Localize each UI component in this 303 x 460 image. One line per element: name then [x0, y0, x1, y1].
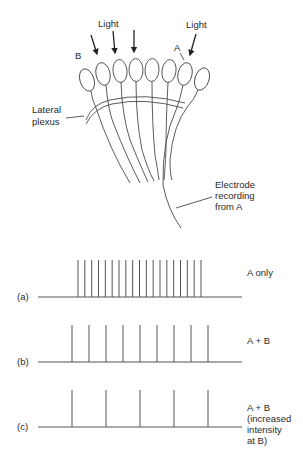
ommatidium-b [77, 67, 97, 93]
ommatidia [77, 58, 212, 93]
ommatidium [94, 61, 112, 86]
cell-a-pointer [180, 53, 184, 60]
electrode-label-1: Electrode [215, 179, 255, 190]
trace-b-label: (b) [17, 356, 29, 367]
light-label-left: Light [98, 18, 119, 29]
plexus-pointer [66, 116, 84, 118]
electrode-pointer [176, 197, 212, 208]
trace-c-condition-3: intensity [247, 424, 282, 435]
cell-b-label: B [75, 50, 81, 61]
lateral-plexus-label-1: Lateral [32, 104, 61, 115]
ommatidium [112, 59, 128, 83]
trace-a: (a) A only [17, 260, 273, 302]
ommatidium [160, 59, 177, 84]
trace-c-condition-1: A + B [247, 402, 270, 413]
trace-b: (b) A + B [17, 325, 270, 367]
trace-c-condition-4: at B) [247, 435, 267, 446]
electrode-label-2: recording [215, 190, 255, 201]
lateral-inhibition-figure: Light Light B A [0, 0, 303, 460]
ommatidium [144, 58, 159, 82]
ommatidium [192, 66, 212, 92]
trace-c-spikes [72, 390, 208, 427]
trace-b-spikes [72, 325, 208, 362]
trace-a-label: (a) [17, 291, 29, 302]
lateral-plexus [86, 97, 185, 124]
trace-c-condition-2: (increased [247, 413, 291, 424]
electrode-label-3: from A [215, 201, 243, 212]
trace-c-label: (c) [17, 421, 28, 432]
arrow-down-icon [190, 34, 196, 55]
cell-a-label: A [174, 42, 181, 53]
lateral-plexus-label-2: plexus [32, 116, 60, 127]
trace-a-condition: A only [247, 267, 273, 278]
trace-a-spikes [78, 260, 201, 297]
arrow-down-icon [113, 31, 115, 53]
ommatidium-a [176, 61, 195, 87]
trace-c: (c) A + B (increased intensity at B) [17, 390, 291, 446]
arrow-down-icon [91, 35, 97, 54]
light-label-right: Light [186, 19, 207, 30]
eye-diagram: Light Light B A [32, 18, 255, 228]
ommatidium [129, 58, 144, 81]
trace-b-condition: A + B [247, 335, 270, 346]
